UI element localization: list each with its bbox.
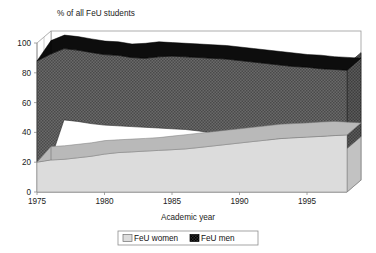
legend-item-women[interactable]: FeU women xyxy=(123,234,179,243)
legend-swatch-men xyxy=(190,235,199,242)
y-tick-label: 0 xyxy=(26,188,31,197)
x-tick-1995: 1995 xyxy=(298,192,317,206)
y-tick-60: 60 xyxy=(22,99,37,108)
x-tick-label: 1975 xyxy=(28,197,47,206)
x-tick-label: 1990 xyxy=(230,197,249,206)
y-tick-80: 80 xyxy=(22,69,37,78)
x-tick-1990: 1990 xyxy=(230,192,249,206)
y-tick-100: 100 xyxy=(17,39,37,48)
legend-item-men[interactable]: FeU men xyxy=(190,234,235,243)
y-tick-label: 40 xyxy=(22,128,32,137)
y-tick-40: 40 xyxy=(22,128,37,137)
y-tick-label: 60 xyxy=(22,99,32,108)
x-tick-label: 1980 xyxy=(95,197,114,206)
legend-swatch-women xyxy=(123,235,132,242)
y-tick-label: 100 xyxy=(17,39,31,48)
legend-label-women: FeU women xyxy=(134,234,179,243)
x-axis-title: Academic year xyxy=(161,213,215,222)
chart-container: % of all FeU students 100 80 xyxy=(0,0,376,253)
x-tick-label: 1985 xyxy=(163,197,182,206)
y-tick-20: 20 xyxy=(22,158,37,167)
y-axis: 100 80 60 40 20 0 xyxy=(17,39,37,197)
area-chart-svg: % of all FeU students 100 80 xyxy=(0,0,376,253)
x-tick-1980: 1980 xyxy=(95,192,114,206)
legend-label-men: FeU men xyxy=(201,234,235,243)
y-tick-label: 20 xyxy=(22,158,32,167)
chart-legend: FeU women FeU men xyxy=(118,231,258,245)
x-tick-1985: 1985 xyxy=(163,192,182,206)
y-tick-label: 80 xyxy=(22,69,32,78)
x-axis: 1975 1980 1985 1990 1995 xyxy=(28,192,317,206)
chart-title: % of all FeU students xyxy=(57,9,135,18)
y-tick-0: 0 xyxy=(26,188,37,197)
x-tick-label: 1995 xyxy=(298,197,317,206)
